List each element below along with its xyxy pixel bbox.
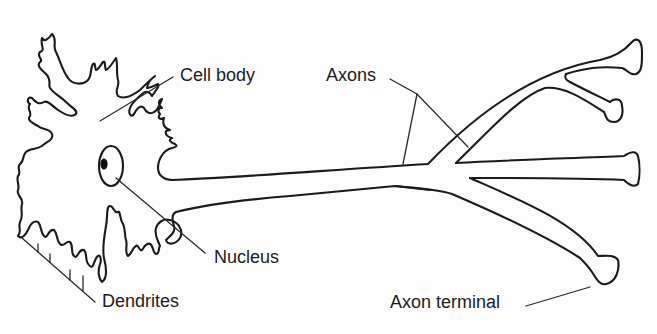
upper-subbranch [456,74,623,163]
neuron-diagram: Cell body Axons Nucleus Dendrites Axon t… [0,0,657,334]
label-nucleus: Nucleus [214,248,279,266]
label-dendrites: Dendrites [102,292,179,310]
nucleolus-dot [100,159,107,170]
axon-terminal-leader [526,287,590,306]
dendrites-leader [22,238,95,302]
label-axons: Axons [326,66,376,84]
nucleus-leader [116,178,205,253]
axons-leader-2 [403,94,417,164]
label-axon-terminal: Axon terminal [390,293,500,311]
middle-axon-branch [456,152,640,185]
neuron-illustration [0,0,657,334]
label-cell-body: Cell body [180,66,255,84]
lower-axon-branch [395,178,619,284]
dendrites-leader-ticks [38,244,83,291]
